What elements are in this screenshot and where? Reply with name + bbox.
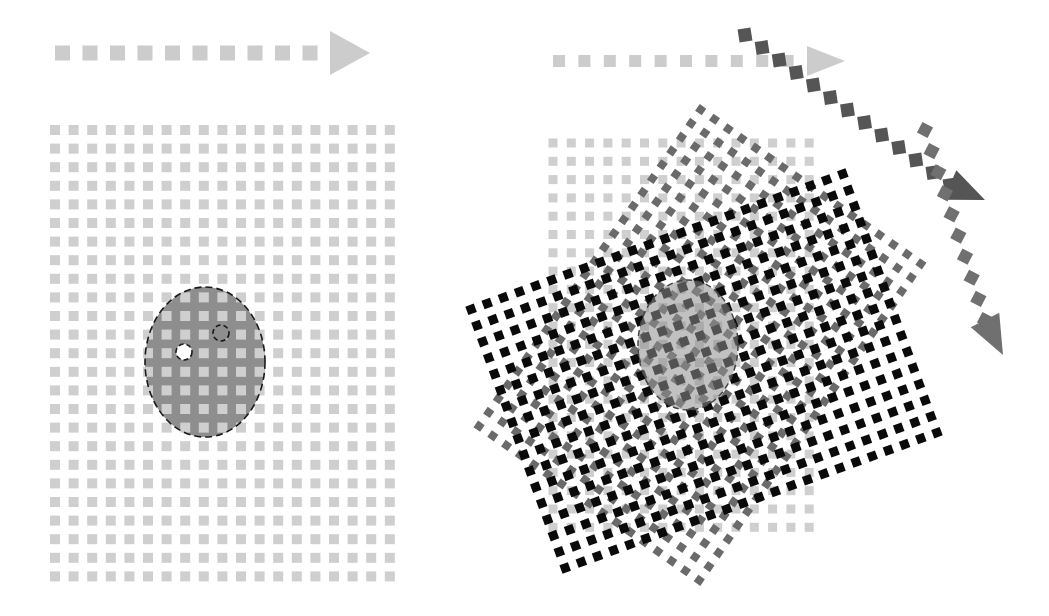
grid-dot — [931, 427, 943, 439]
grid-dot — [624, 539, 636, 551]
grid-dot — [124, 199, 134, 209]
grid-dot — [106, 274, 116, 284]
grid-dot — [106, 404, 116, 414]
grid-dot — [275, 46, 290, 61]
grid-dot — [143, 478, 153, 488]
grid-dot — [881, 390, 893, 402]
grid-dot — [106, 385, 116, 395]
grid-dot — [385, 441, 395, 451]
grid-dot — [888, 239, 899, 250]
grid-dot — [217, 441, 227, 451]
grid-dot — [348, 460, 358, 470]
grid-dot — [180, 571, 190, 581]
grid-dot — [199, 534, 209, 544]
grid-dot — [526, 318, 538, 330]
grid-dot — [310, 460, 320, 470]
grid-dot — [199, 330, 209, 340]
grid-dot — [143, 162, 153, 172]
grid-dot — [180, 218, 190, 228]
registration-diagram — [0, 0, 1049, 616]
grid-dot — [69, 441, 79, 451]
grid-dot — [549, 157, 558, 166]
grid-dot — [162, 311, 172, 321]
grid-dot — [666, 556, 677, 567]
grid-dot — [506, 417, 518, 429]
grid-dot — [514, 286, 526, 298]
grid-dot — [69, 404, 79, 414]
grid-dot — [903, 400, 915, 412]
grid-dot — [106, 218, 116, 228]
grid-dot — [824, 283, 836, 295]
grid-dot — [366, 460, 376, 470]
grid-dot — [329, 311, 339, 321]
grid-dot — [640, 139, 649, 148]
grid-dot — [292, 404, 302, 414]
grid-dot — [310, 385, 320, 395]
grid-dot — [487, 314, 499, 326]
grid-dot — [124, 534, 134, 544]
grid-dot — [915, 433, 927, 445]
grid-dot — [124, 404, 134, 414]
grid-dot — [50, 534, 60, 544]
grid-dot — [348, 478, 358, 488]
grid-dot — [869, 358, 881, 370]
grid-dot — [366, 125, 376, 135]
grid-dot — [385, 274, 395, 284]
grid-dot — [348, 237, 358, 247]
grid-dot — [162, 162, 172, 172]
grid-dot — [474, 421, 485, 432]
grid-dot — [604, 55, 616, 67]
grid-dot — [329, 497, 339, 507]
grid-dot — [655, 55, 667, 67]
grid-dot — [69, 237, 79, 247]
grid-dot — [957, 249, 973, 265]
grid-dot — [303, 46, 318, 61]
grid-dot — [180, 181, 190, 191]
grid-dot — [493, 330, 505, 342]
grid-dot — [180, 423, 190, 433]
grid-dot — [199, 348, 209, 358]
grid-dot — [465, 304, 477, 316]
grid-dot — [750, 523, 759, 532]
grid-dot — [255, 423, 265, 433]
grid-dot — [366, 330, 376, 340]
grid-dot — [217, 385, 227, 395]
grid-dot — [899, 439, 911, 451]
grid-dot — [87, 534, 97, 544]
grid-dot — [622, 230, 631, 239]
grid-dot — [180, 460, 190, 470]
grid-dot — [805, 486, 814, 495]
grid-dot — [180, 385, 190, 395]
grid-dot — [217, 237, 227, 247]
rotation-arrow-diagonal-icon — [738, 28, 985, 200]
grid-dot — [255, 497, 265, 507]
grid-dot — [695, 104, 706, 115]
grid-dot — [162, 534, 172, 544]
grid-dot — [686, 118, 697, 129]
grid-dot — [812, 452, 824, 464]
grid-dot — [329, 404, 339, 414]
grid-dot — [738, 28, 753, 43]
grid-dot — [348, 144, 358, 154]
grid-dot — [477, 336, 489, 348]
grid-dot — [87, 385, 97, 395]
grid-dot — [585, 193, 594, 202]
grid-dot — [786, 139, 795, 148]
grid-dot — [162, 404, 172, 414]
grid-dot — [348, 404, 358, 414]
grid-dot — [690, 551, 701, 562]
grid-dot — [366, 348, 376, 358]
grid-dot — [217, 144, 227, 154]
grid-dot — [489, 368, 501, 380]
grid-dot — [180, 255, 190, 265]
grid-dot — [697, 237, 709, 249]
grid-dot — [69, 571, 79, 581]
grid-dot — [292, 534, 302, 544]
grid-dot — [329, 534, 339, 544]
grid-dot — [867, 450, 879, 462]
grid-dot — [896, 330, 908, 342]
grid-dot — [292, 292, 302, 302]
grid-dot — [385, 423, 395, 433]
grid-dot — [909, 417, 921, 429]
grid-dot — [180, 144, 190, 154]
